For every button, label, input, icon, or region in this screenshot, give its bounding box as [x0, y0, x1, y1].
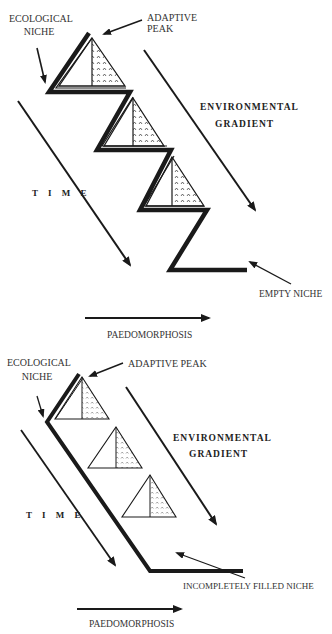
adaptive-peak-triangle [88, 427, 142, 468]
diagram-canvas [0, 0, 332, 634]
ecological-niche-pointer-arrow [37, 396, 43, 416]
niche-zigzag-path [49, 33, 247, 270]
top-diagram [18, 20, 291, 318]
time-label: T I M E [26, 509, 85, 521]
adaptive-peak-label-line2: PEAK [147, 23, 173, 35]
niche-straight-path [47, 374, 243, 571]
adaptive-peak-pointer-arrow [90, 363, 123, 376]
environmental-gradient-label-line1: ENVIRONMENTAL [200, 101, 299, 113]
empty-niche-pointer-arrow [250, 262, 291, 284]
paedomorphosis-label: PAEDOMORPHOSIS [89, 618, 174, 630]
ecological-niche-label-line2: NICHE [7, 371, 67, 383]
environmental-gradient-arrow [144, 50, 255, 210]
time-label: T I M E [32, 187, 91, 199]
bottom-diagram [21, 363, 245, 609]
environmental-gradient-label-line1: ENVIRONMENTAL [173, 432, 272, 444]
adaptive-peak-label: ADAPTIVE PEAK [128, 358, 207, 370]
environmental-gradient-label-line2: GRADIENT [215, 118, 274, 130]
ecological-niche-label-line1: ECOLOGICAL [9, 13, 69, 25]
paedomorphosis-label: PAEDOMORPHOSIS [107, 329, 192, 341]
ecological-niche-pointer-arrow [37, 48, 45, 82]
adaptive-peak-triangle [122, 475, 176, 517]
incompletely-filled-niche-pointer-arrow [177, 553, 245, 578]
adaptive-peak-pointer-arrow [104, 20, 142, 34]
ecological-niche-label-line1: ECOLOGICAL [7, 357, 67, 369]
empty-niche-label: EMPTY NICHE [259, 288, 322, 300]
ecological-niche-label-line2: NICHE [9, 26, 69, 38]
incompletely-filled-niche-label: INCOMPLETELY FILLED NICHE [183, 580, 314, 592]
environmental-gradient-label-line2: GRADIENT [189, 448, 248, 460]
diagram-stage: ECOLOGICAL NICHE ADAPTIVE PEAK ENVIRONME… [0, 0, 332, 634]
